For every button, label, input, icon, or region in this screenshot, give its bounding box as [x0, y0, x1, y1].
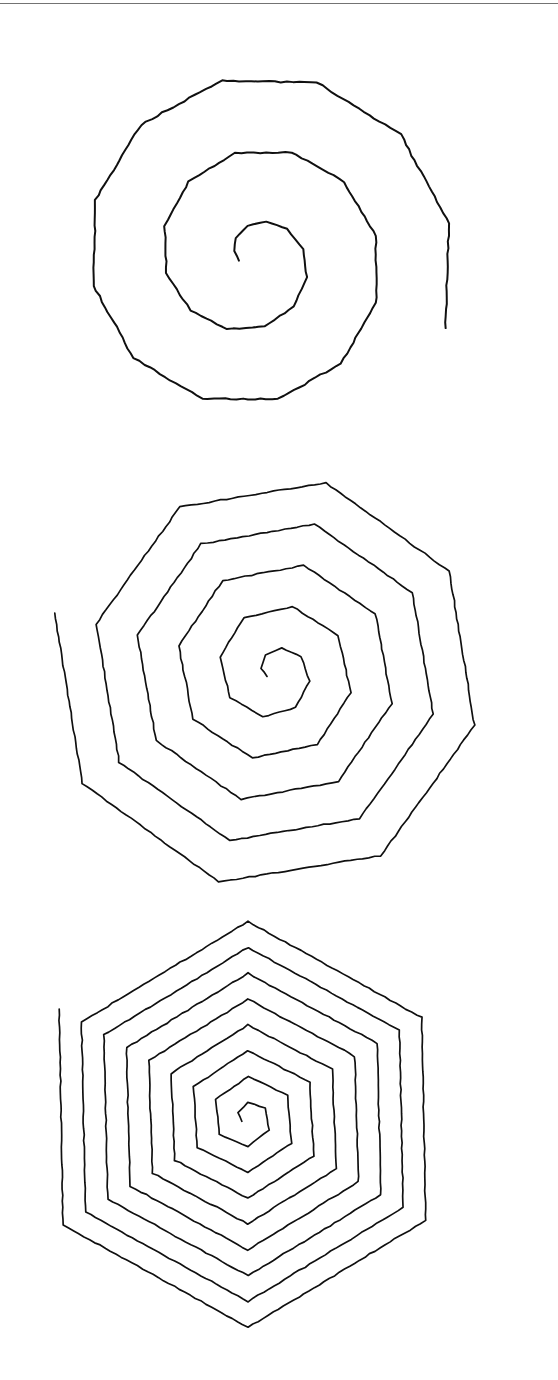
- figure-spiral-3: [0, 890, 558, 1380]
- spiral-3-canvas: [0, 890, 558, 1380]
- figure-spiral-2: [0, 440, 558, 910]
- spiral-1-canvas: [0, 0, 558, 500]
- page-canvas: [0, 0, 558, 1380]
- spiral-2-canvas: [0, 440, 558, 910]
- spiral-2-path: [55, 483, 475, 882]
- figure-spiral-1: [0, 0, 558, 500]
- spiral-3-path: [59, 921, 426, 1327]
- spiral-1-path: [93, 80, 449, 399]
